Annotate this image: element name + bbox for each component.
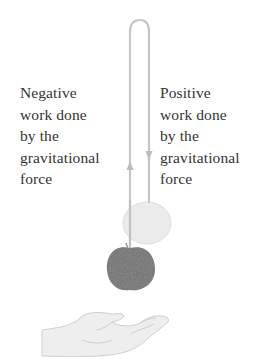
positive-work-line-2: work done [160,104,240,126]
negative-work-line-4: gravitational [20,147,100,169]
apple-dark [107,243,155,290]
negative-work-line-2: work done [20,104,100,126]
hand [42,312,169,356]
negative-work-line-1: Negative [20,82,100,104]
positive-work-label: Positive work done by the gravitational … [160,82,240,190]
negative-work-label: Negative work done by the gravitational … [20,82,100,190]
arrow-down-icon [146,151,153,160]
positive-work-line-4: gravitational [160,147,240,169]
positive-work-line-1: Positive [160,82,240,104]
negative-work-line-5: force [20,168,100,190]
positive-work-line-3: by the [160,125,240,147]
arrow-up-icon [127,161,134,170]
positive-work-line-5: force [160,168,240,190]
negative-work-line-3: by the [20,125,100,147]
